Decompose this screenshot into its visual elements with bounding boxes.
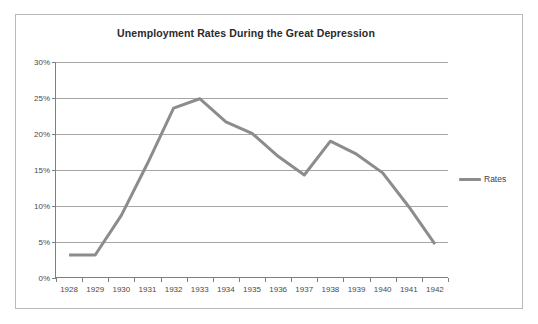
x-tick-label: 1934 xyxy=(217,285,235,294)
x-tick-label: 1928 xyxy=(60,285,78,294)
x-tick-mark xyxy=(396,278,397,282)
x-tick-label: 1930 xyxy=(112,285,130,294)
x-tick-mark xyxy=(239,278,240,282)
y-tick-label: 0% xyxy=(38,274,50,283)
x-tick-mark xyxy=(108,278,109,282)
y-tick-label: 30% xyxy=(34,58,50,67)
x-tick-mark xyxy=(317,278,318,282)
x-tick-mark xyxy=(422,278,423,282)
x-tick-label: 1939 xyxy=(348,285,366,294)
x-tick-label: 1938 xyxy=(321,285,339,294)
x-tick-label: 1942 xyxy=(426,285,444,294)
y-tick-label: 5% xyxy=(38,238,50,247)
x-tick-mark xyxy=(448,278,449,282)
x-tick-mark xyxy=(187,278,188,282)
x-tick-label: 1929 xyxy=(86,285,104,294)
y-tick-label: 10% xyxy=(34,202,50,211)
x-tick-mark xyxy=(343,278,344,282)
x-tick-label: 1941 xyxy=(400,285,418,294)
x-tick-label: 1940 xyxy=(374,285,392,294)
y-tick-label: 20% xyxy=(34,130,50,139)
legend-line-swatch-rates xyxy=(459,178,481,181)
x-tick-mark xyxy=(265,278,266,282)
chart-title: Unemployment Rates During the Great Depr… xyxy=(16,27,476,39)
x-tick-mark xyxy=(134,278,135,282)
x-tick-label: 1935 xyxy=(243,285,261,294)
chart-figure: Unemployment Rates During the Great Depr… xyxy=(15,14,523,309)
x-tick-label: 1932 xyxy=(165,285,183,294)
x-tick-mark xyxy=(370,278,371,282)
x-tick-mark xyxy=(213,278,214,282)
x-tick-label: 1933 xyxy=(191,285,209,294)
x-tick-mark xyxy=(56,278,57,282)
series-line-rates xyxy=(69,99,435,255)
y-tick-label: 15% xyxy=(34,166,50,175)
plot-area: 0%5%10%15%20%25%30% 19281929193019311932… xyxy=(56,62,448,278)
legend-label-rates: Rates xyxy=(484,174,506,184)
y-tick-label: 25% xyxy=(34,94,50,103)
chart-legend: Rates xyxy=(459,174,506,184)
x-tick-label: 1931 xyxy=(139,285,157,294)
series-line-chart xyxy=(56,62,448,278)
x-tick-mark xyxy=(82,278,83,282)
x-tick-label: 1937 xyxy=(295,285,313,294)
x-tick-label: 1936 xyxy=(269,285,287,294)
x-tick-mark xyxy=(291,278,292,282)
x-tick-mark xyxy=(161,278,162,282)
